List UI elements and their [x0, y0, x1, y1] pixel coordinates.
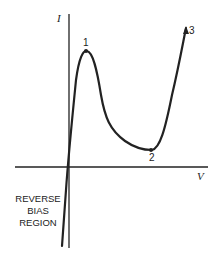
iv-curve-diagram: I V 1 2 3 REVERSE BIAS REGION [0, 0, 221, 259]
svg-text:BIAS: BIAS [27, 205, 49, 216]
x-axis-label: V [197, 170, 205, 182]
point-2-label: 2 [149, 152, 155, 163]
point-3-label: 3 [189, 25, 195, 36]
point-1-label: 1 [83, 37, 89, 48]
y-axis-label: I [56, 12, 62, 24]
svg-text:REVERSE: REVERSE [15, 193, 60, 204]
point-1-marker [84, 49, 88, 53]
svg-text:REGION: REGION [19, 217, 57, 228]
iv-curve [62, 28, 186, 246]
reverse-bias-region-label: REVERSE BIAS REGION [15, 193, 60, 228]
